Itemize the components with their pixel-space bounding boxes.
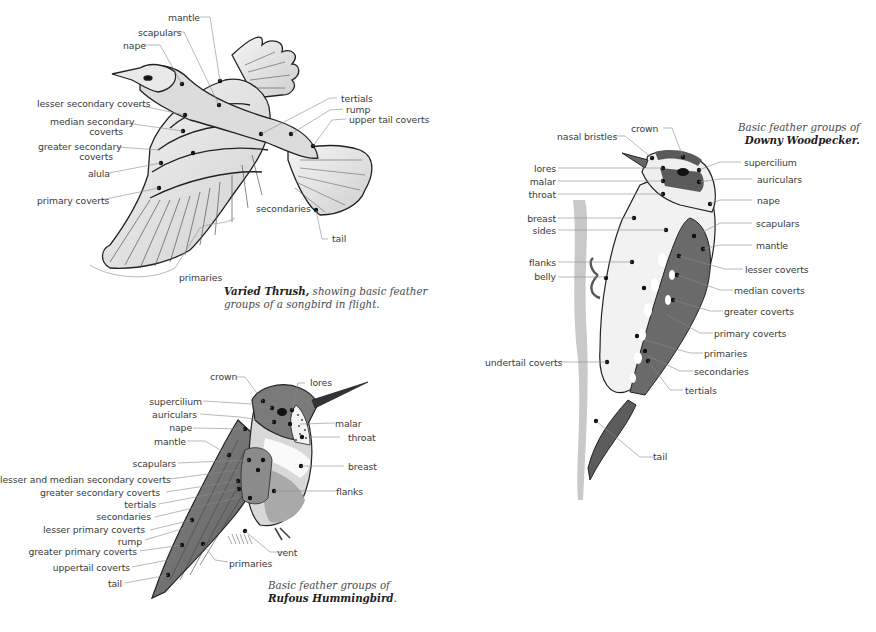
thrush-label-mantle: mantle (168, 12, 200, 23)
hummingbird-label-mantle: mantle (130, 436, 186, 447)
hummingbird-label-flanks: flanks (336, 486, 363, 497)
hummingbird-label-nape: nape (130, 422, 192, 433)
hummingbird-label-supercilium: supercilium (130, 396, 202, 407)
hummingbird-caption: Basic feather groups of Rufous Hummingbi… (268, 579, 397, 605)
hummingbird-label-tail: tail (90, 578, 122, 589)
hummingbird-label-vent: vent (277, 547, 297, 558)
hummingbird-label-uppertail-coverts: uppertail coverts (40, 562, 130, 573)
woodpecker-label-secondaries: secondaries (694, 366, 749, 377)
woodpecker-label-nasal-bristles: nasal bristles (557, 131, 617, 142)
woodpecker-label-tail: tail (653, 451, 667, 462)
hummingbird-caption-period: . (394, 592, 397, 604)
woodpecker-label-lores: lores (500, 163, 556, 174)
hummingbird-label-lores: lores (310, 377, 332, 388)
hummingbird-caption-species: Rufous Hummingbird (268, 592, 394, 604)
thrush-label-primaries: primaries (179, 272, 222, 283)
thrush-label-secondaries: secondaries (256, 203, 311, 214)
woodpecker-label-throat: throat (500, 189, 556, 200)
thrush-label-greater-secondary-coverts-2: coverts (38, 151, 113, 162)
hummingbird-label-malar: malar (335, 418, 361, 429)
woodpecker-label-supercilium: supercilium (744, 157, 797, 168)
woodpecker-label-crown: crown (631, 123, 658, 134)
woodpecker-caption-species: Downy Woodpecker. (745, 134, 860, 146)
hummingbird-label-tertials: tertials (100, 499, 156, 510)
woodpecker-label-mantle: mantle (756, 240, 788, 251)
varied-thrush-illustration (90, 37, 372, 277)
woodpecker-label-sides: sides (500, 225, 556, 236)
woodpecker-label-lesser-coverts: lesser coverts (745, 264, 808, 275)
thrush-label-upper-tail-coverts: upper tail coverts (349, 114, 429, 125)
hummingbird-label-primaries: primaries (229, 558, 272, 569)
woodpecker-label-belly: belly (500, 271, 556, 282)
woodpecker-label-breast: breast (500, 213, 556, 224)
thrush-label-nape: nape (123, 40, 146, 51)
woodpecker-label-scapulars: scapulars (756, 218, 800, 229)
hummingbird-label-crown: crown (210, 371, 237, 382)
thrush-label-lesser-secondary-coverts: lesser secondary coverts (37, 98, 151, 109)
thrush-caption: Varied Thrush, showing basic feather gro… (224, 285, 428, 311)
woodpecker-label-tertials: tertials (685, 385, 717, 396)
thrush-caption-text-1: showing basic feather (309, 285, 427, 297)
thrush-label-tertials: tertials (341, 93, 373, 104)
hummingbird-label-greater-secondary-coverts: greater secondary coverts (40, 487, 160, 498)
hummingbird-caption-text: Basic feather groups of (268, 579, 390, 591)
woodpecker-label-median-coverts: median coverts (734, 285, 805, 296)
woodpecker-label-primary-coverts: primary coverts (714, 328, 786, 339)
hummingbird-label-secondaries: secondaries (80, 511, 151, 522)
thrush-label-median-secondary-coverts-2: coverts (50, 126, 123, 137)
thrush-caption-text-2: groups of a songbird in flight. (224, 298, 380, 310)
thrush-label-scapulars: scapulars (138, 27, 182, 38)
thrush-label-primary-coverts: primary coverts (37, 195, 109, 206)
woodpecker-label-nape: nape (757, 195, 780, 206)
woodpecker-label-primaries: primaries (704, 348, 747, 359)
woodpecker-label-malar: malar (500, 176, 556, 187)
woodpecker-caption: Basic feather groups of Downy Woodpecker… (738, 121, 860, 147)
hummingbird-label-auriculars: auriculars (130, 409, 197, 420)
hummingbird-label-lesser-primary-coverts: lesser primary coverts (40, 524, 145, 535)
hummingbird-label-greater-primary-coverts: greater primary coverts (20, 546, 137, 557)
woodpecker-label-flanks: flanks (500, 257, 556, 268)
thrush-label-tail: tail (332, 233, 346, 244)
woodpecker-caption-text: Basic feather groups of (738, 121, 860, 133)
hummingbird-label-breast: breast (348, 461, 377, 472)
thrush-caption-species: Varied Thrush, (224, 285, 309, 297)
feather-groups-diagram: mantle scapulars nape lesser secondary c… (0, 0, 876, 632)
hummingbird-label-scapulars: scapulars (100, 458, 176, 469)
woodpecker-label-auriculars: auriculars (757, 174, 802, 185)
hummingbird-label-throat: throat (348, 432, 376, 443)
downy-woodpecker-illustration (573, 150, 715, 500)
hummingbird-label-lesser-and-median-secondary-coverts: lesser and median secondary coverts (0, 474, 168, 485)
woodpecker-label-greater-coverts: greater coverts (724, 306, 794, 317)
thrush-label-alula: alula (88, 168, 110, 179)
woodpecker-label-undertail-coverts: undertail coverts (485, 357, 562, 368)
